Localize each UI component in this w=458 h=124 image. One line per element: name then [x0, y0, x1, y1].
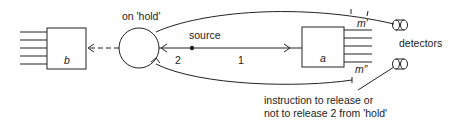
- hold-label: on 'hold': [122, 11, 160, 22]
- path-2-label: 2: [175, 55, 181, 66]
- lower-detector-icon: [393, 59, 408, 69]
- m-double-prime-label: m″: [355, 64, 367, 75]
- instruction-line-2: not to release 2 from 'hold': [264, 108, 387, 119]
- beam-line: [159, 44, 302, 52]
- box-b-label: b: [64, 55, 70, 66]
- hold-loop: [119, 28, 159, 68]
- m-prime-label: m′: [357, 18, 368, 29]
- path-1-label: 1: [238, 55, 244, 66]
- instruction-line-1: instruction to release or: [264, 95, 373, 106]
- box-a-label: a: [320, 53, 326, 64]
- dashed-release-arrow: [88, 44, 119, 52]
- apparatus-b: [20, 28, 86, 69]
- source-dot: [190, 46, 194, 50]
- source-label: source: [189, 30, 221, 41]
- upper-detector-icon: [393, 20, 408, 30]
- detectors-label: detectors: [399, 38, 442, 49]
- apparatus-a: [302, 27, 372, 67]
